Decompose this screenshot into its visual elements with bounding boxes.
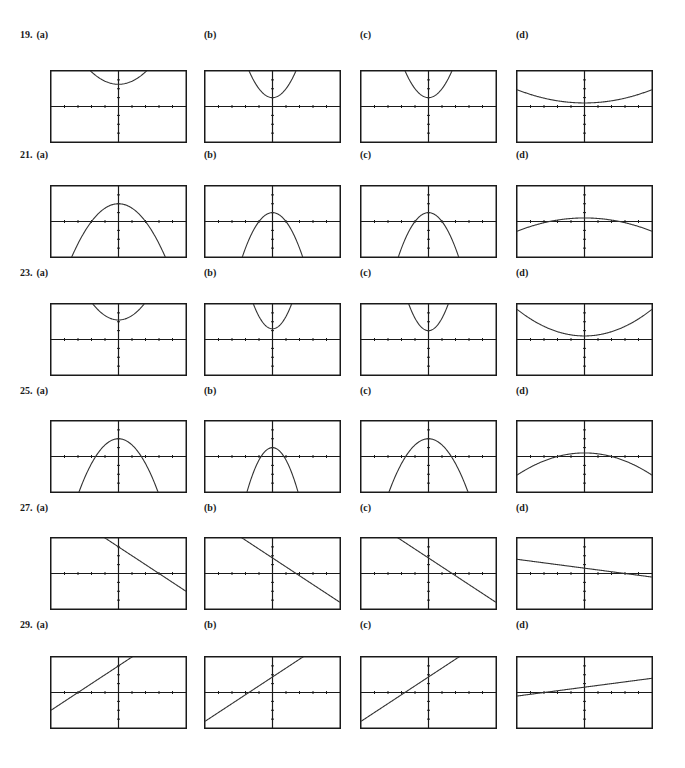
part-letter: (b) bbox=[204, 267, 216, 278]
part-label: (c) bbox=[360, 267, 371, 278]
graph-screen bbox=[360, 185, 497, 258]
graph-screen bbox=[516, 70, 653, 143]
problem-number: 21. bbox=[20, 149, 33, 160]
part-letter: (d) bbox=[516, 267, 528, 278]
part-label: (d) bbox=[516, 267, 528, 278]
graph-screen bbox=[50, 656, 187, 729]
part-letter: (a) bbox=[37, 385, 49, 396]
part-label: 25.(a) bbox=[20, 385, 48, 396]
graph-screen bbox=[50, 420, 187, 493]
part-label: (c) bbox=[360, 385, 371, 396]
graph-screen bbox=[516, 303, 653, 376]
part-letter: (b) bbox=[204, 385, 216, 396]
part-label: (b) bbox=[204, 149, 216, 160]
graph-screen bbox=[204, 656, 341, 729]
part-letter: (b) bbox=[204, 619, 216, 630]
problem-number: 19. bbox=[20, 29, 33, 40]
graph-screen bbox=[204, 185, 341, 258]
part-letter: (b) bbox=[204, 502, 216, 513]
part-label: 23.(a) bbox=[20, 267, 48, 278]
problem-number: 27. bbox=[20, 502, 33, 513]
graph-screen bbox=[204, 420, 341, 493]
part-label: (d) bbox=[516, 149, 528, 160]
part-letter: (c) bbox=[360, 29, 371, 40]
graph-screen bbox=[360, 656, 497, 729]
part-letter: (a) bbox=[37, 29, 49, 40]
graph-screen bbox=[516, 420, 653, 493]
part-label: (b) bbox=[204, 619, 216, 630]
part-label: (d) bbox=[516, 619, 528, 630]
part-label: 19.(a) bbox=[20, 29, 48, 40]
part-letter: (c) bbox=[360, 502, 371, 513]
graph-screen bbox=[360, 70, 497, 143]
graph-screen bbox=[50, 537, 187, 610]
part-letter: (d) bbox=[516, 385, 528, 396]
graph-screen bbox=[360, 420, 497, 493]
part-label: (c) bbox=[360, 502, 371, 513]
graph-screen bbox=[50, 185, 187, 258]
part-letter: (d) bbox=[516, 619, 528, 630]
graph-screen bbox=[360, 537, 497, 610]
part-label: (b) bbox=[204, 385, 216, 396]
part-label: 29.(a) bbox=[20, 619, 48, 630]
problem-number: 29. bbox=[20, 619, 33, 630]
part-label: (b) bbox=[204, 502, 216, 513]
graph-screen bbox=[516, 656, 653, 729]
part-letter: (c) bbox=[360, 619, 371, 630]
part-letter: (b) bbox=[204, 29, 216, 40]
graph-screen bbox=[360, 303, 497, 376]
part-label: (d) bbox=[516, 385, 528, 396]
part-letter: (d) bbox=[516, 29, 528, 40]
part-letter: (d) bbox=[516, 149, 528, 160]
graph-screen bbox=[204, 303, 341, 376]
graph-screen bbox=[204, 537, 341, 610]
problem-number: 23. bbox=[20, 267, 33, 278]
graph-screen bbox=[516, 537, 653, 610]
part-letter: (b) bbox=[204, 149, 216, 160]
part-letter: (a) bbox=[37, 502, 49, 513]
part-label: (c) bbox=[360, 619, 371, 630]
graph-screen bbox=[50, 303, 187, 376]
part-letter: (c) bbox=[360, 385, 371, 396]
part-label: (c) bbox=[360, 29, 371, 40]
part-letter: (c) bbox=[360, 149, 371, 160]
part-label: (d) bbox=[516, 502, 528, 513]
part-letter: (a) bbox=[37, 149, 49, 160]
part-letter: (a) bbox=[37, 619, 49, 630]
graph-screen bbox=[516, 185, 653, 258]
graph-screen bbox=[204, 70, 341, 143]
part-label: (b) bbox=[204, 29, 216, 40]
part-label: 27.(a) bbox=[20, 502, 48, 513]
part-letter: (a) bbox=[37, 267, 49, 278]
part-letter: (c) bbox=[360, 267, 371, 278]
problem-number: 25. bbox=[20, 385, 33, 396]
part-label: (b) bbox=[204, 267, 216, 278]
part-label: 21.(a) bbox=[20, 149, 48, 160]
part-label: (d) bbox=[516, 29, 528, 40]
part-label: (c) bbox=[360, 149, 371, 160]
part-letter: (d) bbox=[516, 502, 528, 513]
graph-screen bbox=[50, 70, 187, 143]
